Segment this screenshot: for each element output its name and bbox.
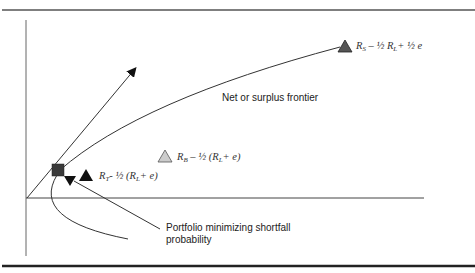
- rs-triangle-icon: [338, 40, 352, 52]
- rt-expr: - ½ (R: [109, 170, 136, 181]
- rb-expr: – ½ (R: [188, 151, 219, 162]
- rt-triangle-icon: [79, 169, 93, 181]
- rt-tail: + e): [140, 170, 158, 181]
- frontier-label: Net or surplus frontier: [222, 92, 318, 104]
- rs-expr: – ½ R: [366, 40, 393, 51]
- rs-tail: + ½ e: [397, 40, 422, 51]
- shortfall-pointer: [74, 181, 160, 229]
- rt-label: RT- ½ (RL+ e): [99, 170, 158, 185]
- rs-label: RS – ½ RL+ ½ e: [356, 40, 422, 55]
- rb-triangle-icon: [158, 150, 172, 162]
- min-shortfall-square: [52, 164, 64, 176]
- shortfall-label-line2: probability: [166, 234, 212, 246]
- rb-tail: + e): [223, 151, 241, 162]
- shortfall-label-line1: Portfolio minimizing shortfall: [166, 222, 291, 234]
- rb-label: RB – ½ (RL+ e): [177, 151, 240, 166]
